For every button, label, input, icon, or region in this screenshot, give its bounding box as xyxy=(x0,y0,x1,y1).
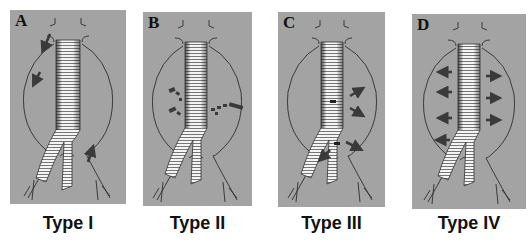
panel-letter: B xyxy=(148,14,159,31)
panel-letter: A xyxy=(15,12,27,29)
caption-type-2: Type II xyxy=(143,214,252,232)
panel-type-2: B xyxy=(143,12,252,206)
aneurysm-graft-diagram xyxy=(10,10,126,204)
caption-type-3: Type III xyxy=(278,214,385,232)
panel-type-1: A xyxy=(10,10,126,204)
aneurysm-graft-diagram xyxy=(278,12,385,207)
panel-letter: D xyxy=(417,16,429,33)
panel-type-3: C xyxy=(278,12,385,207)
panel-type-4: D xyxy=(412,14,526,209)
aneurysm-graft-diagram xyxy=(412,14,526,209)
aneurysm-graft-diagram xyxy=(143,12,252,206)
caption-type-4: Type IV xyxy=(412,214,526,232)
panel-letter: C xyxy=(283,14,295,31)
caption-type-1: Type I xyxy=(10,214,126,232)
